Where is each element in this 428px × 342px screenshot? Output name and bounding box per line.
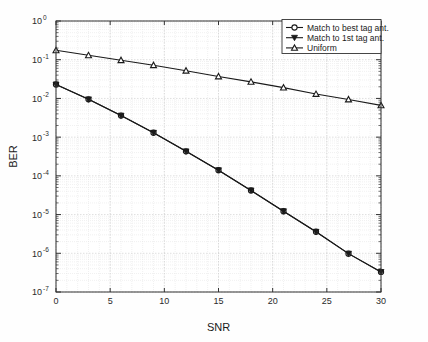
y-tick-exponent: -5 — [43, 208, 49, 215]
x-tick-label: 20 — [268, 296, 278, 306]
y-tick-label: 10 — [32, 16, 42, 26]
x-tick-label: 0 — [53, 296, 58, 306]
legend-label: Match to best tag ant. — [307, 23, 389, 33]
legend-label: Match to 1st tag ant. — [307, 33, 384, 43]
y-tick-label: 10 — [32, 55, 42, 65]
y-tick-label: 10 — [32, 171, 42, 181]
x-axis-title: SNR — [207, 321, 230, 333]
y-tick-label: 10 — [32, 249, 42, 259]
y-tick-exponent: -1 — [43, 53, 49, 60]
y-tick-exponent: 0 — [43, 14, 47, 21]
y-tick-label: 10 — [32, 210, 42, 220]
y-tick-label: 10 — [32, 94, 42, 104]
y-tick-exponent: -7 — [43, 285, 49, 292]
y-tick-label: 10 — [32, 287, 42, 297]
y-tick-exponent: -3 — [43, 130, 49, 137]
x-tick-label: 30 — [376, 296, 386, 306]
y-tick-label: 10 — [32, 133, 42, 143]
x-tick-label: 10 — [159, 296, 169, 306]
y-tick-exponent: -2 — [43, 91, 49, 98]
x-tick-label: 25 — [322, 296, 332, 306]
legend-label: Uniform — [307, 43, 337, 53]
chart-legend[interactable]: Match to best tag ant.Match to 1st tag a… — [282, 20, 389, 54]
x-tick-label: 15 — [213, 296, 223, 306]
legend-marker-icon — [292, 25, 297, 30]
y-tick-exponent: -6 — [43, 246, 49, 253]
y-tick-exponent: -4 — [43, 169, 49, 176]
x-tick-label: 5 — [108, 296, 113, 306]
y-axis-title: BER — [7, 145, 19, 168]
ber-vs-snr-chart: 051015202530 10010-110-210-310-410-510-6… — [0, 0, 428, 342]
figure-container: 051015202530 10010-110-210-310-410-510-6… — [0, 0, 428, 342]
